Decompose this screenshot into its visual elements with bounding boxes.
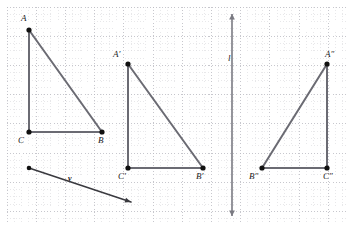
triangle-a-double-prime-b-double-prime-c-double-prime (262, 64, 327, 168)
vertex-point (26, 129, 31, 134)
vertex-label-App: A″ (325, 50, 334, 59)
triangle-a-prime-b-prime-c-prime (128, 64, 203, 168)
vertex-point (324, 165, 329, 170)
geometry-figure: ABCA′B′C′A″B″C″vl (0, 0, 355, 231)
vector-label-v: v (68, 175, 72, 183)
vertex-point (125, 61, 130, 66)
line-arrowhead (229, 14, 235, 20)
vertex-point (324, 61, 329, 66)
vertex-label-C: C (18, 136, 24, 145)
triangle-abc (29, 30, 102, 132)
vertex-label-Bp: B′ (196, 172, 203, 181)
vertex-point (200, 165, 205, 170)
line-arrowhead (229, 211, 235, 217)
reflection-line-l (229, 14, 235, 216)
vertex-label-B: B (98, 136, 104, 145)
grid-layer (7, 7, 348, 222)
vertex-label-Cpp: C″ (323, 172, 333, 181)
vector-arrowhead (125, 198, 131, 203)
vertex-label-Bpp: B″ (249, 172, 258, 181)
vertex-point (259, 165, 264, 170)
vertex-point (26, 27, 31, 32)
vertex-label-A: A (21, 14, 27, 23)
reflection-line-label-l: l (228, 54, 231, 63)
vertex-point (125, 165, 130, 170)
vertex-label-Cp: C′ (118, 172, 126, 181)
vertex-layer (26, 27, 329, 170)
diagram-canvas (0, 0, 355, 231)
vertex-label-Ap: A′ (113, 50, 120, 59)
vertex-point (99, 129, 104, 134)
